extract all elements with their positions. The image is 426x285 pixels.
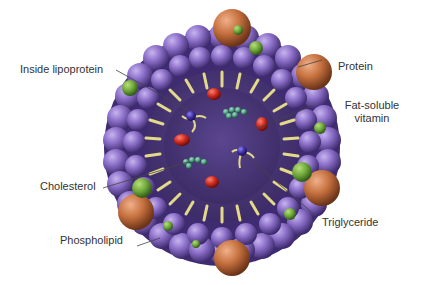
label-inside-lipoprotein: Inside lipoprotein — [20, 63, 103, 76]
label-fat-soluble-vitamin: Fat-soluble vitamin — [338, 99, 406, 125]
label-fat-soluble-line2: vitamin — [338, 112, 406, 125]
label-fat-soluble-line1: Fat-soluble — [338, 99, 406, 112]
label-protein: Protein — [338, 60, 373, 73]
label-triglyceride: Triglyceride — [322, 216, 378, 229]
label-phospholipid: Phospholipid — [60, 234, 123, 247]
lipoprotein-diagram: Inside lipoprotein Protein Fat-soluble v… — [0, 0, 426, 285]
label-cholesterol: Cholesterol — [40, 180, 96, 193]
lipoprotein-core — [146, 70, 298, 222]
